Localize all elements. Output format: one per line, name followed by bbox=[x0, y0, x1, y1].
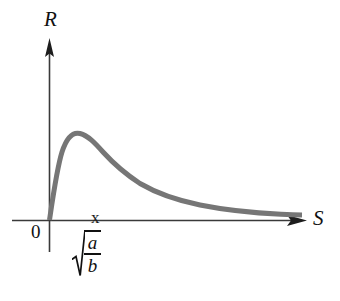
fraction-numerator: a bbox=[85, 233, 101, 253]
curve-R-of-S bbox=[50, 133, 303, 220]
x-tick-value-sqrt-a-over-b: a b bbox=[72, 230, 101, 277]
radical-overbar bbox=[84, 230, 101, 232]
plot-area bbox=[0, 0, 340, 301]
x-axis-label: S bbox=[313, 208, 324, 229]
figure-canvas: R S 0 x a b bbox=[0, 0, 340, 301]
radicand: a b bbox=[84, 230, 101, 275]
origin-label: 0 bbox=[31, 222, 41, 241]
fraction-denominator: b bbox=[85, 255, 101, 275]
fraction-a-over-b: a b bbox=[84, 233, 101, 275]
x-tick-marker-label: x bbox=[91, 209, 100, 226]
x-axis bbox=[12, 215, 307, 226]
y-axis-label: R bbox=[44, 9, 57, 30]
